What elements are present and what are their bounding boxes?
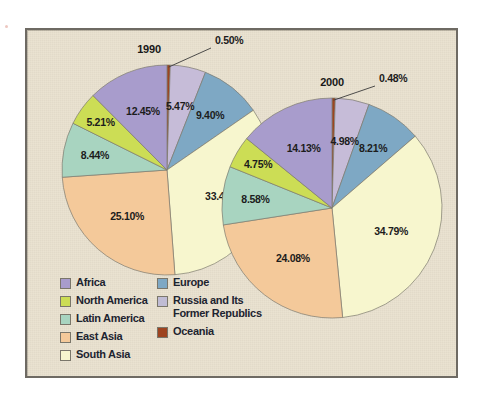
legend-item-latin-america: Latin America	[60, 312, 160, 327]
legend-label-south-asia: South Asia	[76, 348, 130, 361]
pie-slice-value-label: 9.40%	[196, 109, 225, 121]
chart-legend: Africa North America Latin America East …	[60, 276, 290, 376]
legend-swatch-europe	[157, 278, 168, 289]
pie-slice-value-label: 12.45%	[126, 105, 161, 117]
pie-title: 1990	[137, 43, 161, 55]
callout-leader-line	[169, 48, 211, 67]
legend-label-east-asia: East Asia	[76, 330, 122, 343]
pie-slice-value-label: 14.13%	[287, 142, 322, 154]
scan-artifact-dot	[5, 25, 8, 28]
pie-slice-value-label: 8.58%	[241, 193, 270, 205]
legend-label-africa: Africa	[76, 276, 105, 289]
pie-slice	[62, 170, 175, 275]
pie-slice-value-label: 34.79%	[374, 225, 409, 237]
legend-swatch-east-asia	[60, 332, 71, 343]
pie-slice-value-label: 25.10%	[110, 210, 145, 222]
callout-leader-line	[334, 86, 375, 100]
legend-item-europe: Europe	[157, 276, 292, 291]
legend-item-north-america: North America	[60, 294, 160, 309]
legend-label-north-america: North America	[76, 294, 148, 307]
legend-swatch-oceania	[157, 327, 168, 338]
legend-swatch-russia	[157, 296, 168, 307]
pie-slice-value-label: 5.47%	[166, 100, 195, 112]
legend-swatch-africa	[60, 278, 71, 289]
pie-slice-value-label: 8.44%	[81, 149, 110, 161]
pie-slice-value-label: 4.75%	[244, 158, 273, 170]
pie-slice-value-label: 8.21%	[359, 142, 388, 154]
legend-label-europe: Europe	[173, 276, 209, 289]
legend-label-oceania: Oceania	[173, 325, 214, 338]
pie-slice-value-label: 4.98%	[331, 135, 360, 147]
legend-column-left: Africa North America Latin America East …	[60, 276, 160, 366]
legend-swatch-latin-america	[60, 314, 71, 325]
legend-item-oceania: Oceania	[157, 325, 292, 340]
legend-item-east-asia: East Asia	[60, 330, 160, 345]
legend-item-africa: Africa	[60, 276, 160, 291]
legend-item-south-asia: South Asia	[60, 348, 160, 363]
legend-column-right: Europe Russia and Its Former Republics O…	[157, 276, 292, 343]
legend-label-latin-america: Latin America	[76, 312, 144, 325]
pie-slice-value-label: 5.21%	[86, 116, 115, 128]
chart-panel: 19900.50%5.47%9.40%33.43%25.10%8.44%5.21…	[25, 28, 458, 378]
pie-slice-value-label: 0.48%	[379, 72, 408, 84]
legend-item-russia: Russia and Its Former Republics	[157, 294, 292, 322]
pie-slice-value-label: 0.50%	[215, 34, 244, 46]
legend-swatch-north-america	[60, 296, 71, 307]
screenshot-root: 19900.50%5.47%9.40%33.43%25.10%8.44%5.21…	[0, 0, 478, 399]
pie-title: 2000	[320, 76, 344, 88]
legend-label-russia: Russia and Its Former Republics	[173, 294, 262, 320]
legend-swatch-south-asia	[60, 350, 71, 361]
pie-slice-value-label: 24.08%	[276, 252, 311, 264]
